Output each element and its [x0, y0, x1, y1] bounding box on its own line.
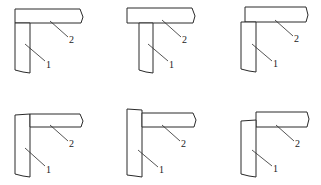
horizontal-member-2 [30, 114, 83, 127]
label-1: 1 [169, 59, 174, 70]
panel-d: 2 1 [15, 114, 83, 177]
horizontal-member-2 [256, 112, 309, 127]
label-2: 2 [294, 33, 299, 44]
label-2: 2 [295, 138, 300, 149]
vertical-member-1 [15, 114, 30, 177]
horizontal-member-2 [127, 8, 195, 23]
label-1: 1 [273, 163, 278, 174]
panel-c: 2 1 [241, 7, 308, 72]
horizontal-member-2 [15, 9, 83, 23]
label-2: 2 [69, 138, 74, 149]
panel-b: 2 1 [127, 8, 195, 73]
label-2: 2 [182, 34, 187, 45]
vertical-member-1 [127, 109, 142, 177]
panel-a: 2 1 [15, 9, 83, 73]
label-1: 1 [159, 164, 164, 175]
horizontal-member-2 [245, 7, 308, 22]
label-2: 2 [181, 138, 186, 149]
label-1: 1 [273, 58, 278, 69]
label-1: 1 [46, 59, 51, 70]
label-2: 2 [69, 34, 74, 45]
vertical-member-1 [241, 120, 256, 177]
panel-f: 2 1 [241, 112, 309, 177]
vertical-member-1 [241, 22, 256, 72]
label-1: 1 [46, 164, 51, 175]
horizontal-member-2 [142, 113, 196, 127]
panel-e: 2 1 [127, 109, 196, 177]
joint-diagram: 2 1 2 1 2 1 2 1 2 1 [0, 0, 321, 185]
vertical-member-1 [139, 23, 153, 73]
vertical-member-1 [15, 23, 30, 73]
